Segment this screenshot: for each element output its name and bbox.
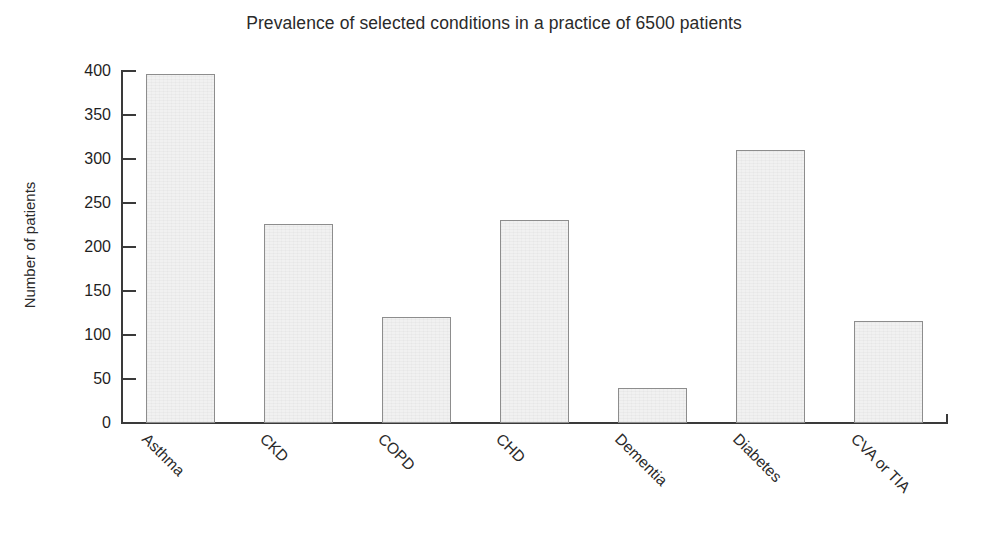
y-axis-tick: [123, 290, 136, 292]
bar: [854, 321, 923, 423]
bar-fill-texture: [265, 225, 332, 422]
y-axis-tick-label: 300: [55, 151, 111, 167]
y-axis-tick: [123, 422, 136, 424]
y-axis-tick: [123, 334, 136, 336]
bar: [618, 388, 687, 423]
bar: [146, 74, 215, 423]
x-axis-category-label: CKD: [256, 430, 292, 466]
y-axis-tick: [123, 378, 136, 380]
y-axis-tick: [123, 70, 136, 72]
bar-fill-texture: [737, 151, 804, 422]
y-axis-tick-label: 200: [55, 239, 111, 255]
bar: [382, 317, 451, 423]
y-axis-tick-label: 350: [55, 107, 111, 123]
x-axis-category-label: CHD: [493, 430, 529, 466]
bar-fill-texture: [383, 318, 450, 422]
y-axis-tick: [123, 114, 136, 116]
bar-fill-texture: [147, 75, 214, 422]
bar-chart-figure: Prevalence of selected conditions in a p…: [0, 0, 988, 542]
y-axis-tick-label: 250: [55, 195, 111, 211]
x-axis-category-label: Asthma: [138, 430, 188, 480]
bar: [500, 220, 569, 423]
y-axis-tick: [123, 202, 136, 204]
x-axis-category-label: COPD: [375, 430, 419, 474]
bar-fill-texture: [855, 322, 922, 422]
x-axis-category-label: Diabetes: [729, 430, 785, 486]
bar: [264, 224, 333, 423]
bar: [736, 150, 805, 423]
y-axis-label: Number of patients: [21, 182, 38, 309]
y-axis-tick-label: 50: [55, 371, 111, 387]
y-axis-tick-label: 400: [55, 63, 111, 79]
y-axis-tick-label: 150: [55, 283, 111, 299]
x-axis-category-label: Dementia: [611, 430, 671, 490]
y-axis-tick: [123, 158, 136, 160]
x-axis-end-tick: [946, 414, 948, 423]
x-axis-category-label: CVA or TIA: [847, 430, 914, 497]
chart-title: Prevalence of selected conditions in a p…: [0, 13, 988, 34]
y-axis-tick-label: 0: [55, 415, 111, 431]
bar-fill-texture: [619, 389, 686, 422]
y-axis-tick-label: 100: [55, 327, 111, 343]
y-axis-tick: [123, 246, 136, 248]
bar-fill-texture: [501, 221, 568, 422]
y-axis-label-container: Number of patients: [14, 60, 44, 430]
